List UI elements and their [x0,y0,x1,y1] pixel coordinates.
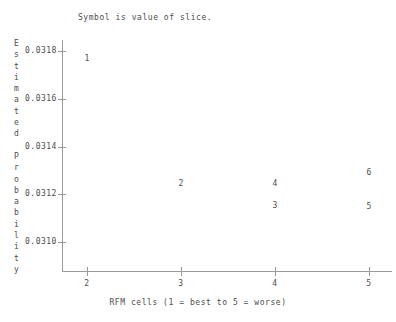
x-axis-tick [181,267,182,276]
y-axis-line [62,40,63,272]
y-axis-tick [58,51,66,52]
y-axis-title-char: m [14,83,26,94]
y-axis-tick-label: 0.0316 [25,94,55,103]
x-axis-tick [369,267,370,276]
y-axis-tick-label: 0.0312 [25,189,55,198]
y-axis-tick [58,99,66,100]
y-axis-title-char: t [14,253,26,264]
y-axis-title-char: r [14,162,26,173]
y-axis-title-char: P [14,151,26,162]
y-axis-tick-label: 0.0310 [25,237,55,246]
x-axis-tick-label: 5 [362,279,376,288]
y-axis-title-char: y [14,264,26,275]
y-axis-title-char: e [14,117,26,128]
x-axis-tick-label: 3 [174,279,188,288]
chart-title: Symbol is value of slice. [78,13,212,22]
scatter-plot-figure: Symbol is value of slice. Estimated Prob… [0,0,396,322]
data-point-symbol: 4 [269,179,281,188]
y-axis-tick-label: 0.0314 [25,142,55,151]
y-axis-tick [58,147,66,148]
x-axis-tick [275,267,276,276]
x-axis-tick-label: 2 [80,279,94,288]
y-axis-tick [58,242,66,243]
y-axis-title-char: o [14,174,26,185]
x-axis-title: RFM cells (1 = best to 5 = worse) [0,298,396,307]
data-point-symbol: 3 [269,201,281,210]
y-axis-title-char: b [14,207,26,218]
data-point-symbol: 2 [175,179,187,188]
y-axis-tick-label: 0.0318 [25,46,55,55]
y-axis-tick [58,194,66,195]
data-point-symbol: 6 [363,168,375,177]
y-axis-title-char: t [14,61,26,72]
x-axis-line [62,271,392,272]
data-point-symbol: 5 [363,202,375,211]
y-axis-title-char: i [14,219,26,230]
y-axis-title-char: t [14,106,26,117]
x-axis-tick [87,267,88,276]
x-axis-tick-label: 4 [268,279,282,288]
data-point-symbol: 1 [81,54,93,63]
y-axis-title-char: i [14,72,26,83]
y-axis-title-char: d [14,128,26,139]
